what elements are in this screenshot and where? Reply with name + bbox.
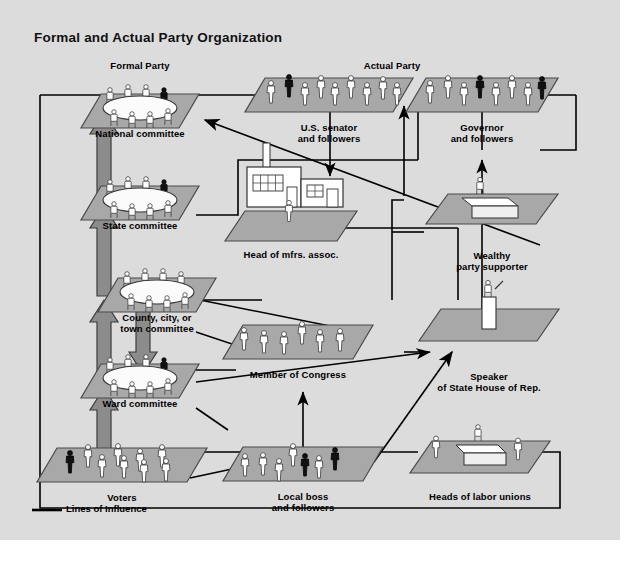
node-label-wealthy: Wealthy party supporter [456,250,528,272]
node-wealthy [426,177,558,224]
diagram-canvas: Formal and Actual Party Organization For… [0,0,629,568]
page-title: Formal and Actual Party Organization [34,30,282,45]
legend-label: Lines of Influence [66,503,147,514]
legend-line-icon [30,505,64,515]
node-national [81,85,199,128]
diagram-graphics [0,0,629,568]
node-label-governor: Governor and followers [451,122,514,144]
node-voters [37,444,207,482]
node-label-labor: Heads of labor unions [429,491,531,502]
node-label-congress: Member of Congress [250,369,346,380]
node-label-senator: U.S. senator and followers [298,122,361,144]
node-label-ward: Ward committee [103,398,178,409]
node-mfrs [225,143,357,241]
node-label-voters: Voters [107,492,136,503]
node-governor [406,76,558,112]
node-speaker [419,280,559,341]
node-localboss [223,444,383,481]
formal-party-header: Formal Party [110,60,169,71]
node-label-mfrs: Head of mfrs. assoc. [244,249,339,260]
node-senator [245,75,413,112]
actual-party-header: Actual Party [364,60,421,71]
node-label-national: National committee [95,128,184,139]
node-label-state: State committee [103,220,178,231]
node-label-speaker: Speaker of State House of Rep. [437,371,541,393]
node-label-county: County, city, or town committee [120,312,194,334]
node-label-localboss: Local boss and followers [272,491,335,513]
node-county [98,269,216,312]
node-labor [410,425,550,473]
node-congress [223,322,373,359]
